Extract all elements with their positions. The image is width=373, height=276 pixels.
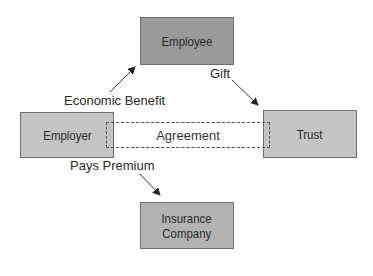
economic-benefit-arrow bbox=[110, 67, 135, 92]
gift-arrow bbox=[232, 80, 258, 105]
pays-premium-arrow bbox=[140, 174, 160, 195]
arrows bbox=[0, 0, 373, 276]
